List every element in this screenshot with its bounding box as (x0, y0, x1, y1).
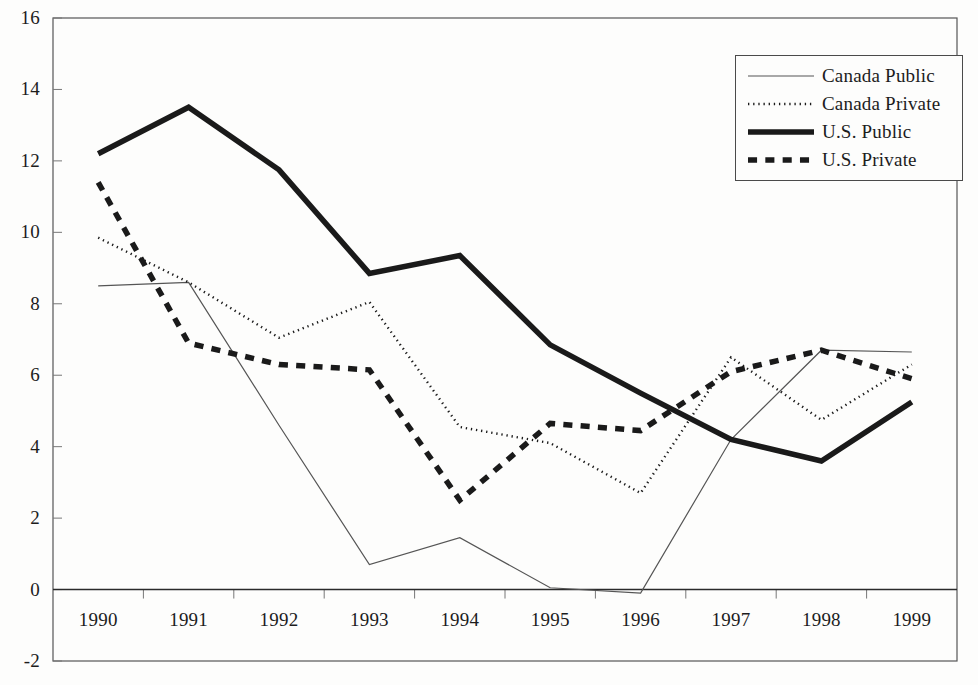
x-tick-label: 1995 (531, 609, 570, 631)
x-tick-label: 1990 (79, 609, 118, 631)
y-tick-label: 16 (0, 7, 40, 29)
legend-item-2[interactable]: U.S. Public (744, 118, 952, 146)
x-tick-label: 1994 (440, 609, 479, 631)
y-tick-label: 6 (0, 364, 40, 386)
x-tick-label: 1991 (169, 609, 208, 631)
y-tick-label: 14 (0, 78, 40, 100)
legend-item-1[interactable]: Canada Private (744, 90, 952, 118)
y-tick-label: 10 (0, 221, 40, 243)
y-tick-label: 4 (0, 436, 40, 458)
y-tick-label: 2 (0, 507, 40, 529)
y-tick-label: 0 (0, 579, 40, 601)
x-tick-label: 1999 (892, 609, 931, 631)
legend-item-0[interactable]: Canada Public (744, 62, 952, 90)
legend-label: U.S. Public (822, 121, 911, 143)
chart-legend: Canada PublicCanada PrivateU.S. PublicU.… (735, 55, 963, 181)
x-tick-label: 1998 (802, 609, 841, 631)
x-tick-label: 1992 (260, 609, 299, 631)
legend-swatch-icon (744, 95, 818, 113)
legend-item-3[interactable]: U.S. Private (744, 146, 952, 174)
x-tick-label: 1997 (712, 609, 751, 631)
legend-label: Canada Private (822, 93, 940, 115)
x-tick-label: 1996 (621, 609, 660, 631)
y-tick-label: 8 (0, 293, 40, 315)
y-tick-label: -2 (0, 650, 40, 672)
legend-label: U.S. Private (822, 149, 917, 171)
series-line-0 (98, 282, 912, 593)
legend-label: Canada Public (822, 65, 935, 87)
y-tick-label: 12 (0, 150, 40, 172)
legend-swatch-icon (744, 67, 818, 85)
legend-swatch-icon (744, 123, 818, 141)
line-chart: -20246810121416 199019911992199319941995… (0, 0, 978, 685)
x-tick-label: 1993 (350, 609, 389, 631)
legend-swatch-icon (744, 151, 818, 169)
